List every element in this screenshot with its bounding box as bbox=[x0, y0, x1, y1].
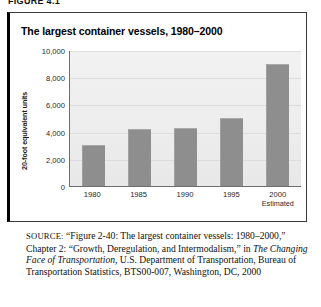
y-tick-label: 4,000 bbox=[46, 128, 65, 137]
x-axis-tick-labels: 19801985199019952000Estimated bbox=[69, 190, 301, 216]
x-tick-label-2000: 2000Estimated bbox=[256, 190, 300, 216]
y-axis-title: 20-foot equivalent units bbox=[18, 71, 30, 191]
bar-1980 bbox=[82, 145, 105, 186]
y-tick-label: 0 bbox=[61, 183, 65, 192]
x-tick-label-1985: 1985 bbox=[117, 190, 161, 216]
source-text-part1: “Figure 2-40: The largest container vess… bbox=[26, 230, 286, 254]
figure-number-label: FIGURE 4.1 bbox=[8, 0, 60, 6]
y-tick-label: 6,000 bbox=[46, 101, 65, 110]
bar-2000 bbox=[266, 64, 289, 186]
bar-1995 bbox=[220, 118, 243, 186]
bar-series bbox=[70, 51, 301, 186]
bar-chart: 20-foot equivalent units 02,0004,0006,00… bbox=[18, 51, 304, 217]
figure-box: The largest container vessels, 1980–2000… bbox=[7, 12, 307, 222]
bar-slot bbox=[210, 51, 254, 186]
y-tick-label: 2,000 bbox=[46, 155, 65, 164]
source-caption: SOURCE: “Figure 2-40: The largest contai… bbox=[26, 230, 309, 277]
x-tick-label-1990: 1990 bbox=[163, 190, 207, 216]
y-tick-label: 10,000 bbox=[42, 47, 65, 56]
source-label: SOURCE: bbox=[26, 231, 64, 241]
x-tick-note: Estimated bbox=[256, 199, 300, 208]
x-tick-label-1980: 1980 bbox=[70, 190, 114, 216]
bar-slot bbox=[117, 51, 161, 186]
bar-slot bbox=[256, 51, 300, 186]
bar-1985 bbox=[128, 129, 151, 186]
y-tick-label: 8,000 bbox=[46, 74, 65, 83]
plot-area bbox=[69, 51, 301, 187]
x-tick-label-1995: 1995 bbox=[209, 190, 253, 216]
bar-1990 bbox=[174, 128, 197, 186]
y-axis-tick-labels: 02,0004,0006,0008,00010,000 bbox=[30, 51, 68, 187]
chart-title: The largest container vessels, 1980–2000 bbox=[21, 25, 222, 37]
bar-slot bbox=[164, 51, 208, 186]
bar-slot bbox=[71, 51, 115, 186]
